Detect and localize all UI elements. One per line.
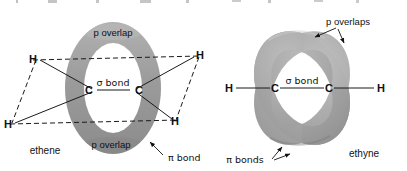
ethene-carbon-right-label: C xyxy=(135,84,143,96)
ethene-hydrogen-bottom-left-label: H xyxy=(4,118,12,130)
figure-root: C C H H H H p overlap p overlap σ bond π… xyxy=(0,0,407,171)
ethyne-diagram: H C C H σ bond p overlaps π bonds ethyne xyxy=(225,14,385,165)
ethene-hydrogen-top-left-label: H xyxy=(29,53,37,65)
ethyne-pi-bonds-label: π bonds xyxy=(226,154,264,165)
ethene-carbon-left-label: C xyxy=(85,84,93,96)
ethyne-p-overlaps-label: p overlaps xyxy=(326,16,370,27)
ethyne-carbon-left-label: C xyxy=(271,82,279,94)
ethyne-sigma-bond-label: σ bond xyxy=(286,75,319,86)
ethyne-carbon-right-label: C xyxy=(325,82,333,94)
cropped-text-row-above xyxy=(16,0,359,3)
ethyne-name-label: ethyne xyxy=(349,148,379,159)
orbital-diagram-svg: C C H H H H p overlap p overlap σ bond π… xyxy=(0,0,407,171)
ethene-hydrogen-top-right-label: H xyxy=(196,49,204,61)
ethyne-hydrogen-right-label: H xyxy=(377,82,385,94)
ethyne-hydrogen-left-label: H xyxy=(225,82,233,94)
ethene-p-overlap-bottom-label: p overlap xyxy=(91,139,130,150)
ethene-p-overlap-top-label: p overlap xyxy=(93,27,132,38)
ethene-hydrogen-bottom-right-label: H xyxy=(171,115,179,127)
ethene-sigma-bond-label: σ bond xyxy=(97,77,130,88)
ethene-diagram: C C H H H H p overlap p overlap σ bond π… xyxy=(4,16,204,163)
ethene-pi-bond-label: π bond xyxy=(168,152,201,163)
ethene-name-label: ethene xyxy=(30,145,61,156)
